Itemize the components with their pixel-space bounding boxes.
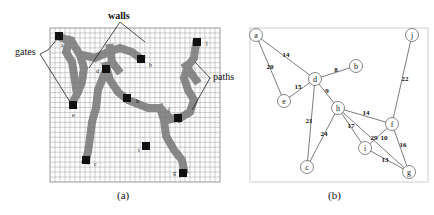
edge-weight-a-d: 14 bbox=[283, 51, 291, 59]
edge-weight-i-f: 10 bbox=[381, 134, 389, 142]
gates-callout-line bbox=[48, 37, 59, 50]
edge-weight-h-i: 17 bbox=[348, 122, 356, 130]
gate-i bbox=[142, 142, 150, 150]
maze-grid-panel: abdhjeficg gates walls paths (a) bbox=[15, 10, 234, 202]
edge-weight-d-c: 21 bbox=[306, 117, 314, 125]
figure: abdhjeficg gates walls paths (a) 1420815… bbox=[0, 0, 434, 215]
edge-weight-a-e: 20 bbox=[267, 63, 275, 71]
edge-weight-d-e: 15 bbox=[295, 83, 303, 91]
gates-label: gates bbox=[15, 46, 36, 57]
gate-g bbox=[179, 169, 187, 177]
node-label-h: h bbox=[336, 104, 340, 113]
edge-weight-h-f: 14 bbox=[363, 109, 371, 117]
edge-weight-d-b: 8 bbox=[334, 66, 338, 74]
node-label-c: c bbox=[305, 163, 309, 172]
gate-j bbox=[193, 38, 201, 46]
node-label-e: e bbox=[282, 97, 286, 106]
gate-f bbox=[174, 114, 182, 122]
gate-label-f: f bbox=[168, 107, 170, 113]
node-label-j: j bbox=[410, 31, 413, 40]
edge-weight-f-g: 16 bbox=[400, 141, 408, 149]
caption-a: (a) bbox=[117, 189, 130, 202]
edge-weight-d-h: 9 bbox=[325, 87, 329, 95]
gate-label-a: a bbox=[61, 42, 64, 48]
graph-panel: 14208159211424172910131622 abdehjficg (b… bbox=[250, 28, 429, 202]
paths-label: paths bbox=[213, 71, 234, 82]
nodes-layer: abdehjficg bbox=[250, 29, 419, 179]
gate-c bbox=[82, 156, 90, 164]
edge-weight-h-g: 29 bbox=[371, 134, 379, 142]
paths-layer bbox=[60, 37, 196, 170]
gate-a bbox=[55, 32, 63, 40]
edge-weight-h-c: 24 bbox=[321, 130, 329, 138]
node-label-g: g bbox=[407, 168, 411, 177]
node-label-d: d bbox=[313, 75, 317, 84]
node-label-f: f bbox=[391, 120, 394, 129]
gate-b bbox=[137, 55, 145, 63]
caption-b: (b) bbox=[328, 189, 341, 202]
path-corridor bbox=[86, 70, 106, 160]
node-label-b: b bbox=[354, 62, 358, 71]
gate-label-b: b bbox=[149, 62, 152, 68]
gate-d bbox=[102, 65, 110, 73]
node-label-a: a bbox=[254, 31, 258, 40]
gate-label-d: d bbox=[96, 68, 99, 74]
gate-label-g: g bbox=[173, 170, 176, 176]
gate-label-e: e bbox=[72, 112, 75, 118]
gate-h bbox=[123, 94, 131, 102]
walls-label: walls bbox=[108, 10, 130, 21]
gate-label-h: h bbox=[136, 98, 139, 104]
gate-label-c: c bbox=[94, 161, 97, 167]
edge-weight-j-f: 22 bbox=[402, 75, 410, 83]
edge-weight-i-g: 13 bbox=[382, 156, 390, 164]
gate-label-j: j bbox=[205, 40, 208, 46]
